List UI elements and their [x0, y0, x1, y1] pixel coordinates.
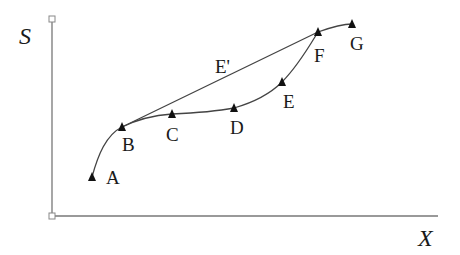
point-label-g: G: [350, 33, 364, 54]
direct-path-label: E': [215, 56, 230, 77]
direct-path-b-f: [122, 32, 318, 127]
point-label-d: D: [230, 117, 244, 138]
curve-f-g: [318, 24, 352, 32]
point-label-c: C: [166, 124, 179, 145]
y-axis-label: S: [19, 23, 31, 49]
y-axis-end-handle: [49, 16, 55, 22]
point-label-f: F: [314, 45, 325, 66]
triangle-marker-b: [118, 122, 126, 131]
triangle-marker-a: [88, 172, 96, 181]
curve-d-e-f: [234, 32, 318, 108]
origin-handle: [49, 213, 55, 219]
point-markers: [88, 19, 356, 181]
point-label-b: B: [122, 134, 135, 155]
thermo-path-diagram: S X E' A B C D E F G: [0, 0, 460, 255]
point-label-e: E: [283, 91, 295, 112]
x-axis-label: X: [417, 225, 434, 251]
point-label-a: A: [106, 167, 120, 188]
